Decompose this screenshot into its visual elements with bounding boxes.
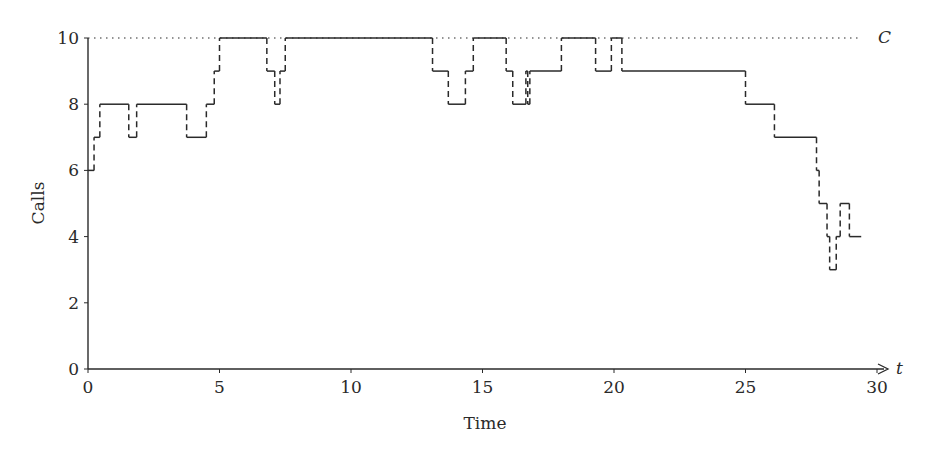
y-tick-label: 2 bbox=[68, 293, 79, 313]
y-tick-label: 0 bbox=[68, 359, 79, 379]
calls-series bbox=[88, 38, 861, 270]
capacity-label: C bbox=[878, 27, 891, 47]
x-tick-label: 15 bbox=[472, 377, 494, 397]
chart: 0510152025300246810 Time Calls t C bbox=[0, 0, 928, 457]
x-axis-arrow-label: t bbox=[896, 358, 903, 378]
x-tick-label: 10 bbox=[340, 377, 362, 397]
step-chart: 0510152025300246810 Time Calls t C bbox=[0, 0, 928, 457]
axes bbox=[84, 38, 888, 374]
y-tick-label: 4 bbox=[68, 227, 79, 247]
tick-labels: 0510152025300246810 bbox=[57, 28, 887, 397]
y-tick-label: 6 bbox=[68, 160, 79, 180]
x-tick-label: 20 bbox=[603, 377, 625, 397]
x-tick-label: 5 bbox=[214, 377, 225, 397]
x-tick-label: 30 bbox=[866, 377, 888, 397]
x-tick-label: 25 bbox=[735, 377, 757, 397]
y-axis-title: Calls bbox=[28, 182, 48, 225]
y-tick-label: 10 bbox=[57, 28, 79, 48]
x-axis-title: Time bbox=[464, 413, 507, 433]
y-tick-label: 8 bbox=[68, 94, 79, 114]
x-tick-label: 0 bbox=[83, 377, 94, 397]
